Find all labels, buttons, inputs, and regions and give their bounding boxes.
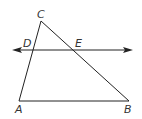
label-d: D [23,37,31,50]
segment-bc [41,21,129,101]
label-e: E [75,37,82,50]
label-b: B [124,103,132,116]
segment-ac [19,21,41,101]
triangle-diagram: C D E A B [0,0,142,119]
label-a: A [14,103,23,116]
label-c: C [37,8,45,21]
